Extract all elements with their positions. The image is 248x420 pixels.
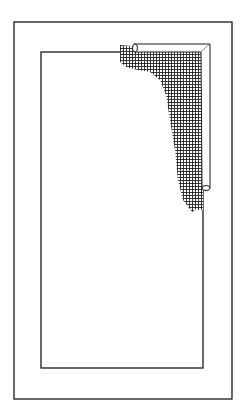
screen-frame-right bbox=[201, 44, 210, 190]
screen-rod-end-top bbox=[133, 44, 138, 52]
mesh-screen bbox=[120, 45, 202, 212]
mesh-edge bbox=[198, 190, 203, 210]
frame-illustration bbox=[0, 0, 248, 420]
screen-frame-top bbox=[134, 44, 210, 52]
screen-rod-end-right bbox=[202, 186, 210, 191]
